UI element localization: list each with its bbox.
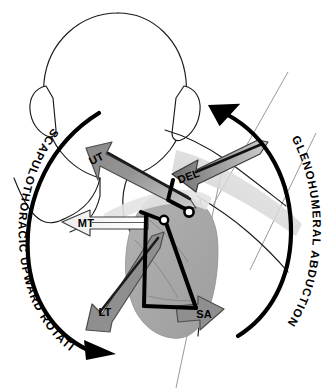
muscle-label-mt: MT — [78, 217, 94, 229]
joint-marker-acromioclavicular — [160, 216, 168, 224]
figure-canvas: UT MT LT SA DEL — [0, 0, 328, 390]
muscle-label-lt: LT — [98, 306, 111, 318]
anatomy-illustration: UT MT LT SA DEL — [0, 0, 328, 390]
arc-scapulothoracic-arrowhead — [84, 340, 116, 360]
linkage-inferior-angle — [144, 306, 196, 308]
joint-marker-glenohumeral — [184, 207, 193, 216]
arc-label-scapulothoracic: SCAPULOTHORACIC UPWARD ROTATION — [0, 0, 77, 354]
arc-glenohumeral: GLENOHUMERAL ABDUCTION — [208, 93, 323, 348]
linkage-medial-border — [144, 216, 146, 306]
muscle-label-sa: SA — [196, 308, 212, 320]
ear-right-outline — [172, 86, 200, 141]
